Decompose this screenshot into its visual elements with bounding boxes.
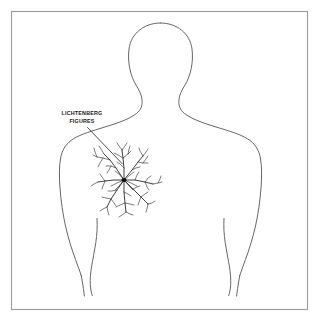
lichtenberg-core-point — [121, 178, 126, 182]
lichtenberg-figures-callout-label: LICHTENBERG FIGURES — [52, 110, 112, 125]
diagram-illustration — [0, 0, 321, 322]
border-frame — [12, 12, 308, 310]
callout-label-line-1: LICHTENBERG — [52, 110, 112, 118]
callout-label-line-2: FIGURES — [52, 118, 112, 126]
diagram-canvas: LICHTENBERG FIGURES — [0, 0, 321, 322]
